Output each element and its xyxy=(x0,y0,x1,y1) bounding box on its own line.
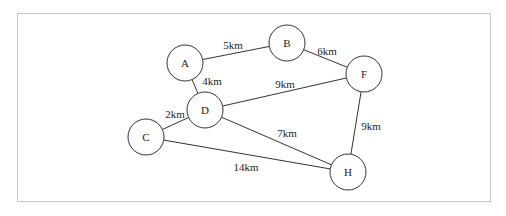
edge-label-d-f: 9km xyxy=(275,78,295,90)
node-c: C xyxy=(128,119,164,155)
node-label: B xyxy=(283,37,290,49)
edge-label-c-h: 14km xyxy=(233,161,259,173)
edge-f-h xyxy=(351,92,361,154)
node-h: H xyxy=(330,154,366,190)
edge-a-d xyxy=(192,80,198,94)
edge-label-f-h: 9km xyxy=(361,120,381,132)
graph-diagram: ABFDCH 5km6km4km9km2km7km9km14km xyxy=(0,0,506,216)
node-f: F xyxy=(346,56,382,92)
edge-label-a-b: 5km xyxy=(223,39,243,51)
node-b: B xyxy=(269,25,305,61)
node-a: A xyxy=(167,45,203,81)
node-label: D xyxy=(201,104,209,116)
node-label: H xyxy=(344,166,352,178)
edge-label-b-f: 6km xyxy=(317,45,337,57)
node-label: A xyxy=(181,57,189,69)
node-d: D xyxy=(187,92,223,128)
node-label: C xyxy=(142,131,149,143)
node-label: F xyxy=(361,68,367,80)
edge-label-a-d: 4km xyxy=(202,75,222,87)
edge-label-c-d: 2km xyxy=(165,108,185,120)
edge-d-h xyxy=(222,117,332,165)
edge-label-d-h: 7km xyxy=(277,127,297,139)
